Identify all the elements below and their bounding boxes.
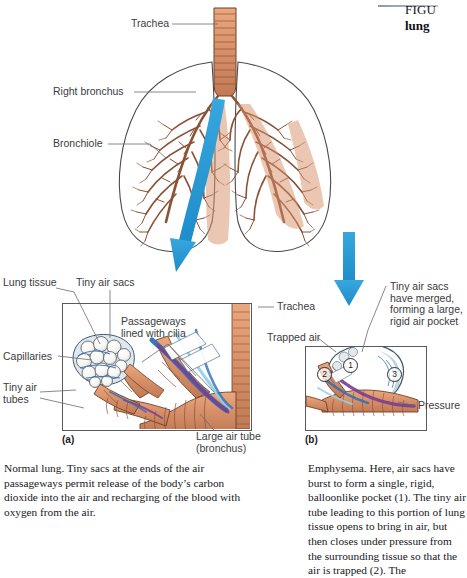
panel-b-frame	[305, 346, 427, 431]
emphysema-caption: Emphysema. Here, air sacs have burst to …	[308, 461, 466, 578]
label-trapped-air: Trapped air	[267, 332, 320, 344]
label-pressure: Pressure	[418, 400, 460, 412]
normal-lung-caption: Normal lung. Tiny sacs at the ends of th…	[4, 461, 254, 519]
label-trachea: Trachea	[131, 18, 169, 30]
panel-a-marker: (a)	[62, 434, 74, 445]
label-passageways-cilia: Passageways lined with cilia	[121, 316, 186, 339]
label-capillaries: Capillaries	[3, 351, 52, 363]
label-tiny-air-sacs: Tiny air sacs	[76, 277, 135, 289]
callout-1: 1	[343, 358, 358, 373]
label-bronchiole: Bronchiole	[53, 138, 103, 150]
panel-b-marker: (b)	[305, 434, 318, 445]
callout-3: 3	[387, 367, 402, 382]
arrow-to-panel-b	[334, 232, 364, 306]
label-right-bronchus: Right bronchus	[53, 86, 124, 98]
label-lung-tissue: Lung tissue	[3, 277, 57, 289]
trachea-shape	[214, 8, 236, 96]
label-large-air-tube: Large air tube (bronchus)	[196, 431, 261, 454]
label-tiny-air-sacs-merged: Tiny air sacs have merged, forming a lar…	[390, 281, 463, 327]
label-tiny-air-tubes: Tiny air tubes	[3, 382, 37, 405]
callout-2: 2	[317, 367, 332, 382]
label-trachea-panel-a: Trachea	[277, 301, 315, 313]
